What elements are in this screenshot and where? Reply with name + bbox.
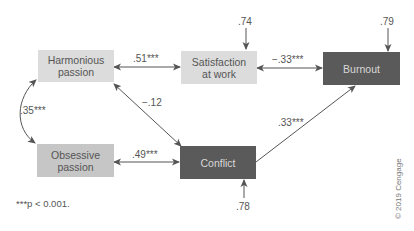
coef-satisfaction-burnout: −.33***: [272, 54, 303, 65]
node-label: Obsessive: [51, 149, 100, 161]
residual-satisfaction: .74: [238, 16, 252, 27]
node-satisfaction-at-work: Satisfaction at work: [181, 51, 257, 84]
edge-harmonious-conflict: [114, 84, 181, 146]
footnote: ***p < 0.001.: [16, 198, 70, 209]
node-harmonious-passion: Harmonious passion: [38, 50, 114, 82]
node-conflict: Conflict: [180, 146, 256, 179]
node-label: at work: [202, 68, 236, 80]
edge-conflict-burnout: [256, 86, 355, 162]
coef-harmonious-satisfaction: .51***: [133, 53, 159, 64]
coef-harmonious-obsessive: .35***: [20, 105, 46, 116]
node-label: Burnout: [343, 63, 380, 75]
coef-obsessive-conflict: .49***: [132, 149, 158, 160]
coef-conflict-burnout: .33***: [278, 117, 304, 128]
node-burnout: Burnout: [323, 52, 400, 85]
node-label: Conflict: [200, 157, 235, 169]
node-label: passion: [57, 161, 93, 173]
node-label: Harmonious: [48, 54, 105, 66]
residual-burnout: .79: [380, 16, 394, 27]
edges-layer: [0, 0, 414, 231]
copyright-credit: © 2019 Cengage: [394, 158, 403, 219]
residual-conflict: .78: [236, 201, 250, 212]
node-label: Satisfaction: [192, 56, 246, 68]
coef-harmonious-conflict: −.12: [142, 97, 162, 108]
node-label: passion: [58, 66, 94, 78]
node-obsessive-passion: Obsessive passion: [37, 144, 114, 177]
